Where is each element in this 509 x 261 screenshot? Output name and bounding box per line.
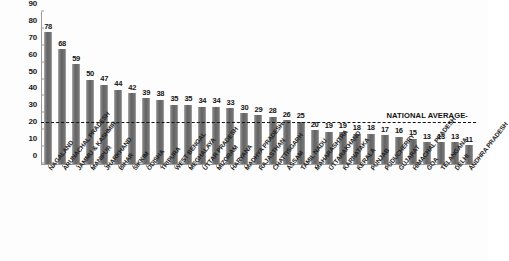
y-axis-tick-label: 20 [29,117,42,126]
bar-value-label: 47 [100,74,108,83]
y-axis-tick-label: 10 [29,134,42,143]
bar-value-label: 28 [269,106,277,115]
bar-value-label: 29 [255,105,263,114]
bar-value-label: 59 [72,54,80,63]
bar-value-label: 25 [297,111,305,120]
bar-value-label: 16 [395,126,403,135]
y-axis-tick-label: 80 [29,15,42,24]
bar [45,32,52,164]
bar-value-label: 35 [184,94,192,103]
bar-value-label: 18 [367,123,375,132]
bar-value-label: 39 [142,88,150,97]
bar-value-label: 35 [170,94,178,103]
bar-value-label: 30 [241,103,249,112]
bar-value-label: 20 [311,120,319,129]
bar-value-label: 68 [58,39,66,48]
y-axis-tick-label: 30 [29,100,42,109]
bar-value-label: 34 [198,96,206,105]
bar-value-label: 38 [156,89,164,98]
bar-slot: 30 [237,12,251,164]
bar-value-label: 17 [381,125,389,134]
y-axis-tick-label: 50 [29,66,42,75]
bar-value-label: 44 [114,79,122,88]
y-axis-tick-label: 0 [33,151,41,160]
bar-slot: 38 [153,12,167,164]
y-axis-tick-label: 70 [29,32,42,41]
bar-value-label: 42 [128,83,136,92]
x-axis-labels: NAGALANDARUNACHAL PRADESHJAMMU & KASHMIR… [41,165,476,261]
bar-slot: 17 [378,12,392,164]
bar-value-label: 13 [451,132,459,141]
national-average-line [41,122,476,123]
y-axis-tick-label: 60 [29,49,42,58]
bar-slot: 35 [167,12,181,164]
y-axis-tick-label: 90 [29,0,42,8]
bar-value-label: 78 [44,22,52,31]
bar-value-label: 13 [423,132,431,141]
bar-value-label: 33 [227,98,235,107]
bar-value-label: 26 [283,110,291,119]
bar-value-label: 50 [86,69,94,78]
bar-slot: 39 [139,12,153,164]
bar-value-label: 34 [213,96,221,105]
y-axis-tick-label: 40 [29,83,42,92]
bar-slot: 78 [41,12,55,164]
